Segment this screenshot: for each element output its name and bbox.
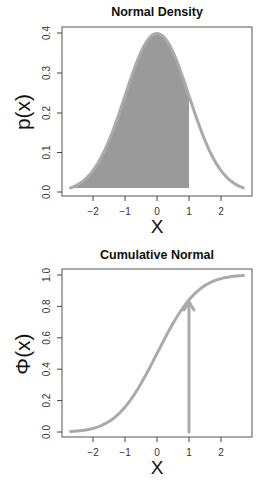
y-axis: [57, 33, 62, 192]
arrow-annotation: [184, 302, 194, 432]
y-axis: [57, 275, 62, 432]
chart-title: Normal Density: [111, 5, 203, 19]
y-tick-label: 0.0: [41, 185, 52, 199]
x-tick-label: 1: [186, 206, 192, 217]
x-tick-label: −2: [87, 206, 99, 217]
y-tick-label: 0.6: [41, 330, 52, 344]
y-tick-label: 0.1: [41, 145, 52, 159]
x-axis: [93, 437, 221, 442]
y-tick-label: 1.0: [41, 268, 52, 282]
x-tick-label: 2: [218, 206, 224, 217]
y-tick-label: 0.3: [41, 66, 52, 80]
shaded-area: [71, 33, 189, 188]
x-axis: [93, 196, 221, 201]
x-axis-label: X: [151, 457, 164, 478]
density-chart: Normal Density −2 −1 0 1 2 X 0.0 0: [11, 5, 252, 237]
x-tick-label: −2: [87, 447, 99, 458]
x-axis-label: X: [151, 216, 164, 237]
y-tick-label: 0.4: [41, 26, 52, 40]
x-tick-label: −1: [119, 206, 131, 217]
x-tick-label: −1: [119, 447, 131, 458]
chart-title: Cumulative Normal: [100, 248, 214, 262]
y-tick-label: 0.2: [41, 106, 52, 120]
cdf-chart: Cumulative Normal −2 −1 0 1 2 X: [11, 248, 252, 478]
y-tick-label: 0.4: [41, 362, 52, 376]
y-tick-label: 0.0: [41, 425, 52, 439]
y-axis-label: p(x): [11, 94, 34, 130]
cdf-curve: [71, 276, 244, 432]
x-tick-label: 1: [186, 447, 192, 458]
y-tick-label: 0.8: [41, 299, 52, 313]
x-tick-label: 2: [218, 447, 224, 458]
y-tick-label: 0.2: [41, 393, 52, 407]
y-axis-label: Φ(x): [11, 333, 34, 374]
